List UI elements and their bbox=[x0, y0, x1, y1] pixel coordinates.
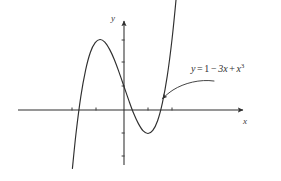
x-axis-label: x bbox=[243, 117, 247, 126]
equation-annotation: y=1−3x+x3 bbox=[191, 63, 244, 74]
annotation-pointer-arrow bbox=[163, 80, 215, 98]
equation-lhs: y bbox=[191, 63, 196, 74]
equation-cubic-exponent: 3 bbox=[241, 62, 244, 69]
equation-linear-term: 3x bbox=[218, 63, 228, 74]
y-axis-label: y bbox=[111, 14, 115, 23]
plot-canvas bbox=[0, 0, 281, 181]
equation-plus: + bbox=[228, 63, 237, 74]
equation-minus: − bbox=[209, 63, 218, 74]
function-graph-figure: y x y=1−3x+x3 bbox=[0, 0, 281, 181]
cubic-curve bbox=[72, 0, 180, 169]
equation-equals: = bbox=[196, 63, 205, 74]
